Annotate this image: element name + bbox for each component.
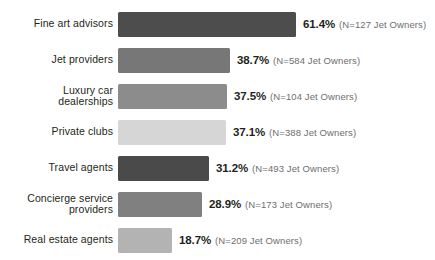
bar-area: 28.9% (N=173 Jet Owners) xyxy=(118,186,435,222)
chart-row: Fine art advisors 61.4% (N=127 Jet Owner… xyxy=(0,6,435,42)
sample-size-annotation: (N=127 Jet Owners) xyxy=(335,19,426,30)
category-label: Fine art advisors xyxy=(0,18,118,30)
chart-row: Private clubs 37.1% (N=388 Jet Owners) xyxy=(0,114,435,150)
bar-area: 38.7% (N=584 Jet Owners) xyxy=(118,42,435,78)
chart-row: Concierge service providers 28.9% (N=173… xyxy=(0,186,435,222)
value-label: 18.7% xyxy=(179,234,211,246)
sample-size-annotation: (N=104 Jet Owners) xyxy=(266,91,357,102)
bar-area: 61.4% (N=127 Jet Owners) xyxy=(118,6,435,42)
chart-row: Real estate agents 18.7% (N=209 Jet Owne… xyxy=(0,222,435,258)
bar-chart: Fine art advisors 61.4% (N=127 Jet Owner… xyxy=(0,0,435,260)
value-label: 61.4% xyxy=(303,18,335,30)
value-group: 37.5% (N=104 Jet Owners) xyxy=(227,90,357,102)
category-label: Private clubs xyxy=(0,126,118,138)
chart-row: Luxury car dealerships 37.5% (N=104 Jet … xyxy=(0,78,435,114)
value-group: 18.7% (N=209 Jet Owners) xyxy=(172,234,302,246)
value-label: 38.7% xyxy=(237,54,269,66)
bar-area: 37.1% (N=388 Jet Owners) xyxy=(118,114,435,150)
bar xyxy=(118,84,227,109)
sample-size-annotation: (N=173 Jet Owners) xyxy=(241,199,332,210)
chart-row: Travel agents 31.2% (N=493 Jet Owners) xyxy=(0,150,435,186)
sample-size-annotation: (N=584 Jet Owners) xyxy=(269,55,360,66)
bar xyxy=(118,120,226,145)
category-label: Jet providers xyxy=(0,54,118,66)
value-label: 37.1% xyxy=(233,126,265,138)
bar xyxy=(118,156,209,181)
category-label: Travel agents xyxy=(0,162,118,174)
value-group: 61.4% (N=127 Jet Owners) xyxy=(296,18,426,30)
value-group: 28.9% (N=173 Jet Owners) xyxy=(202,198,332,210)
sample-size-annotation: (N=388 Jet Owners) xyxy=(265,127,356,138)
category-label: Real estate agents xyxy=(0,234,118,246)
value-group: 37.1% (N=388 Jet Owners) xyxy=(226,126,356,138)
value-label: 31.2% xyxy=(216,162,248,174)
bar xyxy=(118,228,172,253)
value-label: 28.9% xyxy=(209,198,241,210)
chart-row: Jet providers 38.7% (N=584 Jet Owners) xyxy=(0,42,435,78)
value-group: 38.7% (N=584 Jet Owners) xyxy=(230,54,360,66)
bar xyxy=(118,48,230,73)
bar-area: 18.7% (N=209 Jet Owners) xyxy=(118,222,435,258)
bar-area: 37.5% (N=104 Jet Owners) xyxy=(118,78,435,114)
bar xyxy=(118,12,296,37)
category-label: Luxury car dealerships xyxy=(0,85,118,108)
value-label: 37.5% xyxy=(234,90,266,102)
sample-size-annotation: (N=493 Jet Owners) xyxy=(248,163,339,174)
bar-area: 31.2% (N=493 Jet Owners) xyxy=(118,150,435,186)
value-group: 31.2% (N=493 Jet Owners) xyxy=(209,162,339,174)
sample-size-annotation: (N=209 Jet Owners) xyxy=(211,235,302,246)
bar xyxy=(118,192,202,217)
category-label: Concierge service providers xyxy=(0,193,118,216)
